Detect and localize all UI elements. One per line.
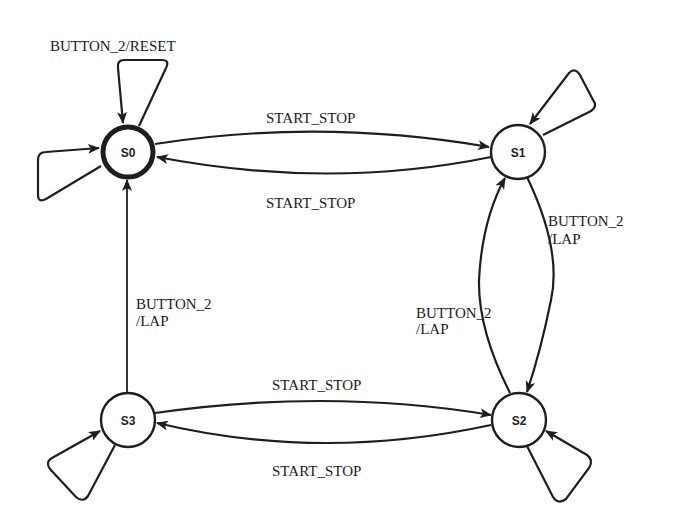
label-s0-self-reset: BUTTON_2/RESET: [50, 38, 176, 54]
state-s0-label: S0: [121, 146, 136, 160]
state-s3: S3: [101, 393, 155, 447]
label-s2-to-s3: START_STOP: [272, 463, 361, 479]
label-s1-to-s0: START_STOP: [266, 195, 355, 211]
label-s0-to-s1: START_STOP: [266, 110, 355, 126]
edge-s0-to-s1: [155, 132, 489, 147]
edge-s1-to-s0: [157, 157, 491, 174]
state-s1: S1: [491, 125, 545, 179]
label-s3-to-s2: START_STOP: [272, 377, 361, 393]
edge-s0-self-reset: [118, 60, 167, 126]
state-s2: S2: [492, 393, 546, 447]
edge-s1-self: [530, 70, 595, 135]
label-s3-to-s0-line1: BUTTON_2: [136, 296, 212, 312]
state-s2-label: S2: [512, 414, 527, 428]
label-s1-to-s2-line1: BUTTON_2: [548, 213, 624, 229]
state-s3-label: S3: [121, 414, 136, 428]
state-diagram: S0 S1 S2 S3 BUTTON_2/RESET START_STOP ST…: [0, 0, 680, 528]
edge-s3-to-s2: [155, 401, 491, 415]
label-s3-to-s0-line2: /LAP: [136, 313, 169, 329]
edge-s2-to-s1: [479, 178, 510, 393]
label-s2-to-s1-line1: BUTTON_2: [416, 305, 492, 321]
state-s0: S0: [103, 127, 153, 177]
edge-s1-to-s2: [527, 177, 554, 392]
edge-s2-to-s3: [157, 423, 491, 443]
edge-s3-self: [48, 431, 115, 500]
label-s1-to-s2-line2: /LAP: [548, 231, 581, 247]
edge-s0-self-left: [38, 148, 101, 200]
label-s2-to-s1-line2: /LAP: [416, 321, 449, 337]
state-s1-label: S1: [511, 146, 526, 160]
